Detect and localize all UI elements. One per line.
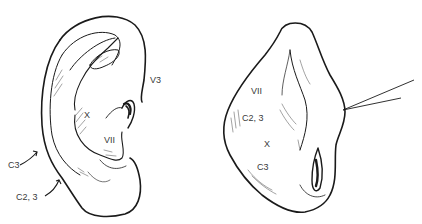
needle-lines <box>343 80 414 110</box>
label-c2-3-lateral: C2, 3 <box>16 193 38 202</box>
pointer-arrows <box>20 151 61 196</box>
label-v3-lateral: V3 <box>150 76 161 85</box>
label-x-posterior: X <box>264 140 270 149</box>
ear-innervation-diagram <box>0 0 422 224</box>
label-vii-lateral: VII <box>104 136 115 145</box>
label-vii-posterior: VII <box>251 87 262 96</box>
label-c3-posterior: C3 <box>257 163 269 172</box>
lateral-ear-drawing <box>42 16 146 216</box>
label-c2-3-posterior: C2, 3 <box>242 114 264 123</box>
label-c3-lateral: C3 <box>8 161 20 170</box>
label-x-lateral: X <box>84 111 90 120</box>
